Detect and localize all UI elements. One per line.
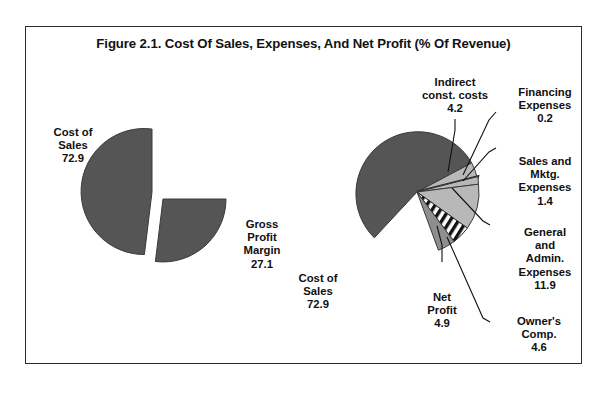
cost-breakdown-pie [356,132,479,250]
label-financing-expenses: Financing Expenses 0.2 [504,86,586,126]
label-indirect-const-costs: Indirect const. costs 4.2 [400,76,510,116]
leader-financing-expenses [463,112,496,175]
label-cost-of-sales-left: Cost of Sales 72.9 [35,126,111,166]
label-gross-profit-margin: Gross Profit Margin 27.1 [225,218,299,271]
label-general-admin-expenses: General and Admin. Expenses 11.9 [504,226,586,292]
label-net-profit: Net Profit 4.9 [404,291,480,331]
label-sales-mktg-expenses: Sales and Mktg. Expenses 1.4 [504,155,586,208]
label-owners-comp: Owner's Comp. 4.6 [496,315,582,355]
slice-gross-profit-margin[interactable] [155,199,226,262]
figure-canvas: Figure 2.1. Cost Of Sales, Expenses, And… [0,0,611,396]
label-cost-of-sales-right: Cost of Sales 72.9 [280,272,356,312]
